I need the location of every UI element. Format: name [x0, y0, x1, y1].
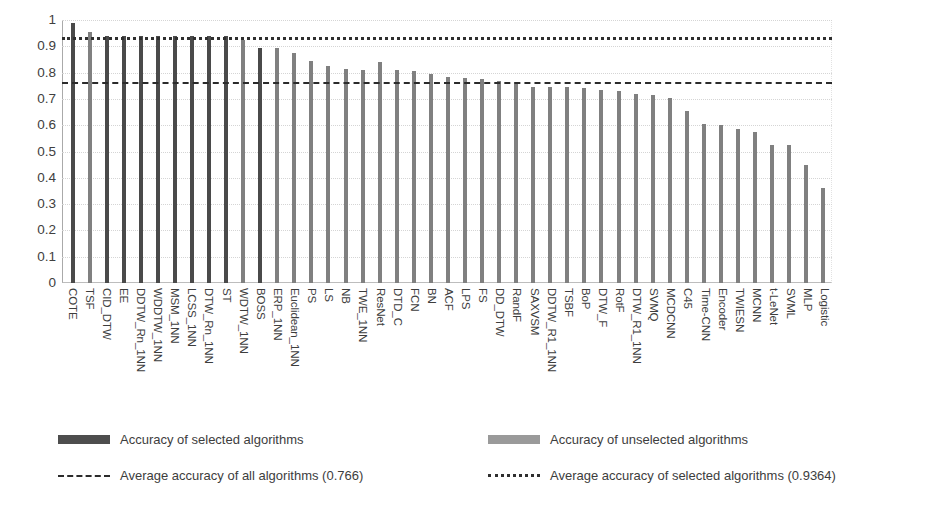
- y-axis: 10.90.80.70.60.50.40.30.20.10: [10, 20, 56, 283]
- legend-entry-avg-all: Average accuracy of all algorithms (0.76…: [58, 468, 363, 483]
- bar-twiesn: [736, 129, 740, 283]
- bar-bop: [582, 88, 586, 283]
- bar-randf: [514, 82, 518, 283]
- bar-acf: [446, 77, 450, 283]
- bar-slot: [542, 20, 559, 283]
- x-axis-tick-label: Encoder: [717, 288, 729, 330]
- bar-slot: [678, 20, 695, 283]
- x-label-slot: PS: [304, 286, 321, 406]
- bar-wddtw-1nn: [156, 36, 160, 283]
- x-axis-tick-label: BoP: [580, 288, 592, 309]
- x-label-slot: ResNet: [372, 286, 389, 406]
- x-axis-tick-label: EE: [118, 288, 130, 303]
- legend-entry-selected-bars: Accuracy of selected algorithms: [58, 432, 304, 447]
- legend-marker-bar-light-icon: [488, 435, 540, 444]
- bar-slot: [98, 20, 115, 283]
- reference-line-average-all: [62, 82, 832, 84]
- x-label-slot: LS: [321, 286, 338, 406]
- x-axis-tick-label: FCN: [409, 288, 421, 311]
- bar-ddtw-rn-1nn: [139, 36, 143, 283]
- x-label-slot: DDTW_Rn_1NN: [132, 286, 149, 406]
- bar-slot: [354, 20, 371, 283]
- x-label-slot: SVML: [783, 286, 800, 406]
- x-axis-tick-label: t-LeNet: [768, 288, 780, 325]
- bar-msm-1nn: [173, 36, 177, 283]
- x-label-slot: DTD_C: [389, 286, 406, 406]
- x-axis-tick-label: TSBF: [563, 288, 575, 317]
- y-axis-tick-label: 0.9: [12, 40, 56, 54]
- x-label-slot: LCSS_1NN: [184, 286, 201, 406]
- bar-encoder: [719, 125, 723, 283]
- x-axis-tick-label: C45: [682, 288, 694, 309]
- legend-entry-avg-selected: Average accuracy of selected algorithms …: [488, 468, 836, 483]
- bar-slot: [491, 20, 508, 283]
- bar-slot: [388, 20, 405, 283]
- bar-t-lenet: [770, 145, 774, 283]
- x-label-slot: MCDCNN: [663, 286, 680, 406]
- x-axis-tick-label: CID_DTW: [101, 288, 113, 340]
- x-axis-tick-label: ResNet: [375, 288, 387, 326]
- bar-series: [64, 20, 832, 283]
- x-axis-tick-label: MCNN: [751, 288, 763, 322]
- x-label-slot: CID_DTW: [98, 286, 115, 406]
- bar-slot: [422, 20, 439, 283]
- x-label-slot: TWE_1NN: [355, 286, 372, 406]
- x-axis-tick-label: LCSS_1NN: [186, 288, 198, 347]
- x-label-slot: TWIESN: [731, 286, 748, 406]
- bar-twe-1nn: [361, 70, 365, 283]
- x-axis-tick-label: NB: [340, 288, 352, 304]
- bar-c45: [685, 111, 689, 283]
- bar-st: [224, 36, 228, 283]
- x-axis-tick-label: MSM_1NN: [169, 288, 181, 344]
- bar-ls: [326, 66, 330, 283]
- bar-slot: [337, 20, 354, 283]
- x-label-slot: Encoder: [714, 286, 731, 406]
- bar-ddtw-r1-1nn: [548, 87, 552, 283]
- bar-ee: [122, 36, 126, 283]
- bar-fs: [480, 79, 484, 283]
- bar-slot: [764, 20, 781, 283]
- bar-slot: [183, 20, 200, 283]
- x-axis-tick-label: DTD_C: [392, 288, 404, 326]
- x-axis-tick-label: ERP_1NN: [272, 288, 284, 340]
- bar-fcn: [412, 71, 416, 283]
- x-axis-tick-label: RotF: [614, 288, 626, 313]
- bar-slot: [166, 20, 183, 283]
- x-axis-tick-label: DDTW_Rn_1NN: [135, 288, 147, 372]
- bar-dtw-f: [599, 90, 603, 283]
- x-label-slot: RandF: [509, 286, 526, 406]
- x-label-slot: RotF: [612, 286, 629, 406]
- bar-tsf: [88, 32, 92, 283]
- bar-bn: [429, 74, 433, 283]
- bar-rotf: [617, 91, 621, 283]
- bar-slot: [115, 20, 132, 283]
- x-label-slot: DTW_Rn_1NN: [201, 286, 218, 406]
- x-label-slot: DD_DTW: [492, 286, 509, 406]
- x-label-slot: Euclidean_1NN: [286, 286, 303, 406]
- y-axis-tick-label: 0: [12, 276, 56, 290]
- bar-slot: [593, 20, 610, 283]
- bar-slot: [456, 20, 473, 283]
- x-label-slot: DTW_R1_1NN: [629, 286, 646, 406]
- x-label-slot: LPS: [458, 286, 475, 406]
- x-axis-tick-label: PS: [306, 288, 318, 303]
- bar-slot: [815, 20, 832, 283]
- bar-slot: [371, 20, 388, 283]
- x-axis-tick-label: Time-CNN: [700, 288, 712, 341]
- x-label-slot: MCNN: [748, 286, 765, 406]
- bar-svmq: [651, 95, 655, 283]
- bar-slot: [64, 20, 81, 283]
- x-label-slot: SAXVSM: [526, 286, 543, 406]
- bar-cote: [71, 23, 75, 283]
- x-label-slot: ST: [218, 286, 235, 406]
- x-label-slot: WDTW_1NN: [235, 286, 252, 406]
- bar-slot: [252, 20, 269, 283]
- x-label-slot: TSF: [81, 286, 98, 406]
- legend-label: Accuracy of unselected algorithms: [550, 432, 748, 447]
- bar-slot: [644, 20, 661, 283]
- x-axis-tick-label: TSF: [84, 288, 96, 309]
- bar-slot: [627, 20, 644, 283]
- bar-euclidean-1nn: [292, 53, 296, 283]
- bar-lcss-1nn: [190, 36, 194, 283]
- bar-slot: [132, 20, 149, 283]
